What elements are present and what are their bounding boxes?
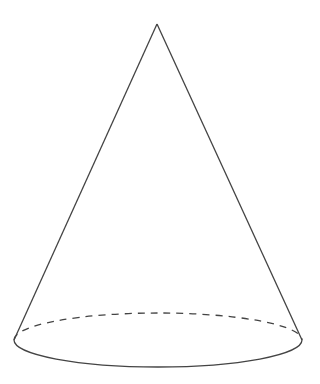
cone-left-edge — [14, 24, 157, 340]
cone-diagram — [0, 0, 320, 384]
base-hidden-back-arc — [14, 313, 302, 340]
cone-right-edge — [157, 24, 302, 340]
base-front-arc — [14, 340, 302, 367]
